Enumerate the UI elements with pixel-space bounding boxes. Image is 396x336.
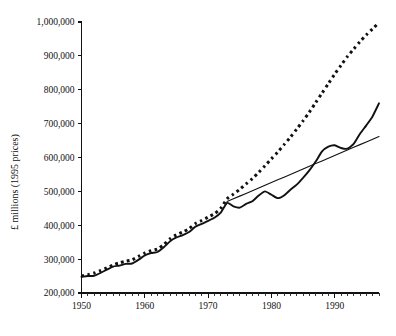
y-axis-tick-label: 800,000 (44, 85, 75, 95)
y-axis-ticks (78, 22, 82, 293)
y-axis-title: £ millions (1995 prices) (9, 134, 21, 230)
y-axis-tick-label: 600,000 (44, 153, 75, 163)
x-axis-ticks (82, 293, 380, 298)
series-line-trend (227, 137, 379, 202)
series-line-counterfactual (82, 23, 380, 276)
y-axis-tick-label: 1,000,000 (37, 17, 75, 27)
x-axis-tick-label: 1960 (135, 301, 154, 311)
chart-container: £ millions (1995 prices) 200,000300,0004… (0, 0, 396, 336)
x-axis-tick-label: 1970 (199, 301, 218, 311)
x-axis-tick-label: 1950 (72, 301, 91, 311)
x-axis-tick-labels: 19501960197019801990 (72, 301, 344, 311)
y-axis-tick-label: 200,000 (44, 288, 75, 298)
y-axis-tick-label: 900,000 (44, 51, 75, 61)
x-axis-tick-label: 1990 (325, 301, 344, 311)
series-line-actual (82, 103, 380, 276)
y-axis-tick-label: 400,000 (44, 221, 75, 231)
x-axis-tick-label: 1980 (262, 301, 281, 311)
line-chart: £ millions (1995 prices) 200,000300,0004… (0, 0, 396, 336)
y-axis-tick-labels: 200,000300,000400,000500,000600,000700,0… (37, 17, 75, 298)
y-axis-title-group: £ millions (1995 prices) (9, 134, 21, 230)
y-axis-tick-label: 300,000 (44, 255, 75, 265)
y-axis-tick-label: 700,000 (44, 119, 75, 129)
y-axis-tick-label: 500,000 (44, 187, 75, 197)
